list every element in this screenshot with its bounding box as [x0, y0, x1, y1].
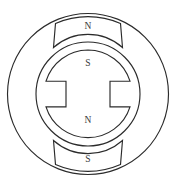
diagram-canvas: N S N S: [0, 0, 177, 186]
label-stator-pole-top: N: [84, 21, 91, 31]
label-rotor-top: S: [85, 58, 90, 68]
label-stator-pole-bottom: S: [85, 154, 90, 164]
label-rotor-bottom: N: [84, 115, 91, 125]
motor-cross-section-svg: N S N S: [0, 0, 177, 186]
